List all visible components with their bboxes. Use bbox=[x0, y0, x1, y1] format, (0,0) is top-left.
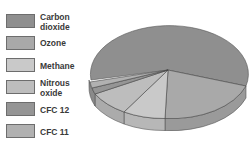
pie-chart-3d bbox=[0, 0, 249, 152]
